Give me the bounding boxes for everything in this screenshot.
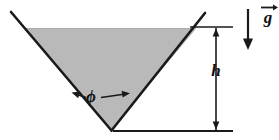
wedge-diagram-svg: [0, 0, 279, 140]
figure-container: ϕ h g: [0, 0, 279, 140]
angle-arrow-left-head: [72, 92, 81, 99]
liquid-fill-region-shade: [26, 29, 196, 130]
gravity-arrow-head: [243, 39, 253, 51]
gravity-label-g: g: [264, 9, 273, 26]
height-dimension-arrowhead-bottom: [213, 122, 220, 130]
height-dimension-arrowhead-top: [213, 29, 220, 37]
gravity-vector-overbar-head: [273, 5, 278, 11]
angle-label-phi: ϕ: [86, 88, 96, 105]
height-label-h: h: [211, 62, 220, 79]
